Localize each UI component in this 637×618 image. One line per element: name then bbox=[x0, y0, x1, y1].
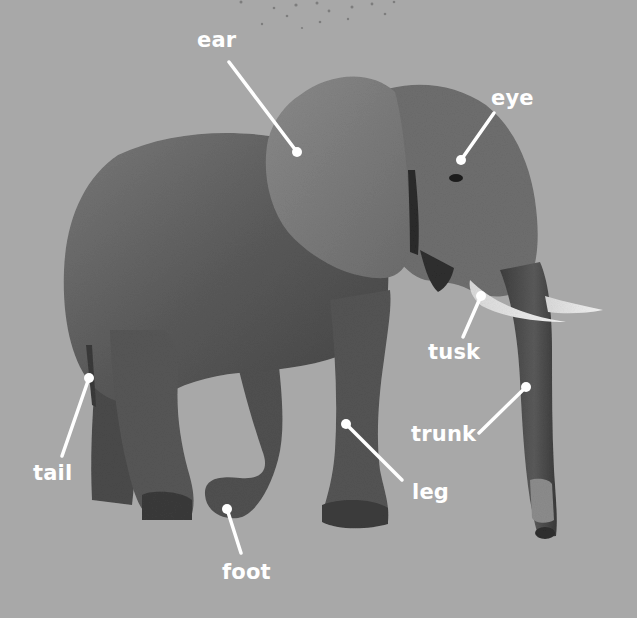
eye-shape bbox=[449, 174, 463, 182]
elephant-diagram: ear eye tusk trunk tail leg foot bbox=[0, 0, 637, 618]
elephant-illustration bbox=[0, 0, 637, 618]
tusk-pointer-dot bbox=[476, 291, 486, 301]
tusk-pointer-line bbox=[463, 296, 481, 337]
label-foot: foot bbox=[222, 562, 271, 583]
label-eye: eye bbox=[491, 88, 534, 109]
trunk-pointer-dot bbox=[521, 382, 531, 392]
tail-pointer-dot bbox=[84, 373, 94, 383]
label-tusk: tusk bbox=[428, 342, 480, 363]
tail-pointer-line bbox=[62, 378, 89, 456]
label-ear: ear bbox=[197, 30, 236, 51]
ear-pointer-dot bbox=[292, 147, 302, 157]
foot-pointer-dot bbox=[222, 504, 232, 514]
speckle-dots bbox=[240, 1, 396, 30]
eye-pointer-dot bbox=[456, 155, 466, 165]
tusk-far bbox=[545, 296, 603, 313]
label-leg: leg bbox=[412, 482, 449, 503]
leg-pointer-dot bbox=[341, 419, 351, 429]
label-tail: tail bbox=[33, 463, 72, 484]
trunk-pointer-line bbox=[479, 387, 526, 433]
label-trunk: trunk bbox=[411, 424, 476, 445]
